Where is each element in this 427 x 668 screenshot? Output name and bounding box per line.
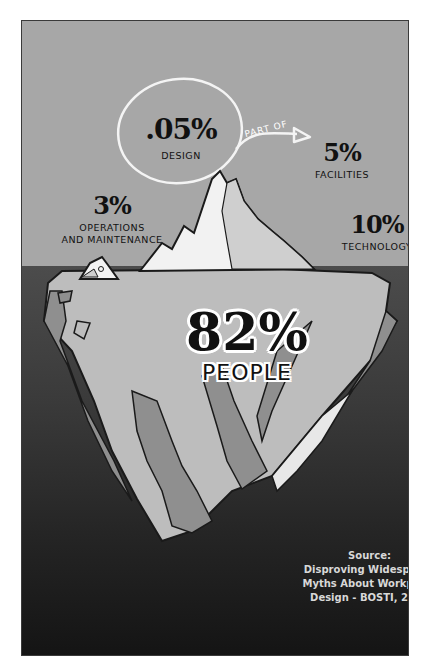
stat-technology: 10% TECHNOLOGY bbox=[327, 213, 409, 253]
stat-design: .05% DESIGN bbox=[121, 116, 241, 162]
stat-facilities: 5% FACILITIES bbox=[297, 141, 387, 181]
iceberg-tip-shade-icon bbox=[222, 179, 314, 269]
source-citation: Source: Disproving Widespread Myths Abou… bbox=[292, 549, 409, 605]
operations-label-line2: AND MAINTENANCE bbox=[42, 234, 182, 246]
stat-people: 82% PEOPLE bbox=[172, 306, 322, 385]
source-line-2: Disproving Widespread bbox=[292, 563, 409, 577]
source-line-1: Source: bbox=[292, 549, 409, 563]
design-label: DESIGN bbox=[121, 150, 241, 162]
operations-value: 3% bbox=[42, 194, 182, 218]
design-value: .05% bbox=[121, 116, 241, 144]
stat-operations: 3% OPERATIONS AND MAINTENANCE bbox=[42, 194, 182, 246]
infographic-frame: .05% DESIGN PART OF 5% FACILITIES 3% OPE… bbox=[21, 20, 409, 656]
operations-label-line1: OPERATIONS bbox=[42, 222, 182, 234]
technology-label: TECHNOLOGY bbox=[327, 241, 409, 253]
people-value: 82% bbox=[172, 306, 322, 358]
people-label: PEOPLE bbox=[172, 360, 322, 385]
technology-value: 10% bbox=[327, 213, 409, 237]
facilities-value: 5% bbox=[297, 141, 387, 165]
ice-fleck-2-icon bbox=[58, 291, 72, 303]
facilities-label: FACILITIES bbox=[297, 169, 387, 181]
source-line-3: Myths About Workplace bbox=[292, 577, 409, 591]
source-line-4: Design - BOSTI, 2001 bbox=[292, 591, 409, 605]
